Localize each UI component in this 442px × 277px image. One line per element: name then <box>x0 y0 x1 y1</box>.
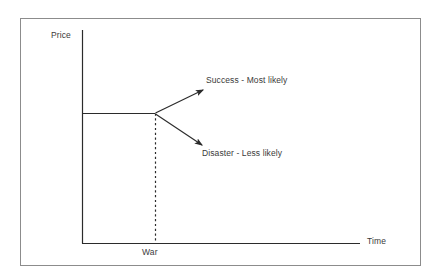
y-axis-label: Price <box>51 30 71 40</box>
x-axis-label: Time <box>367 236 386 246</box>
war-event-label: War <box>142 247 158 257</box>
success-branch-arrow <box>156 90 204 113</box>
disaster-branch-arrow <box>156 114 203 145</box>
success-branch-label: Success - Most likely <box>206 75 287 85</box>
diagram-canvas: Price Time War Success - Most likely Dis… <box>0 0 442 277</box>
disaster-branch-label: Disaster - Less likely <box>202 148 282 158</box>
